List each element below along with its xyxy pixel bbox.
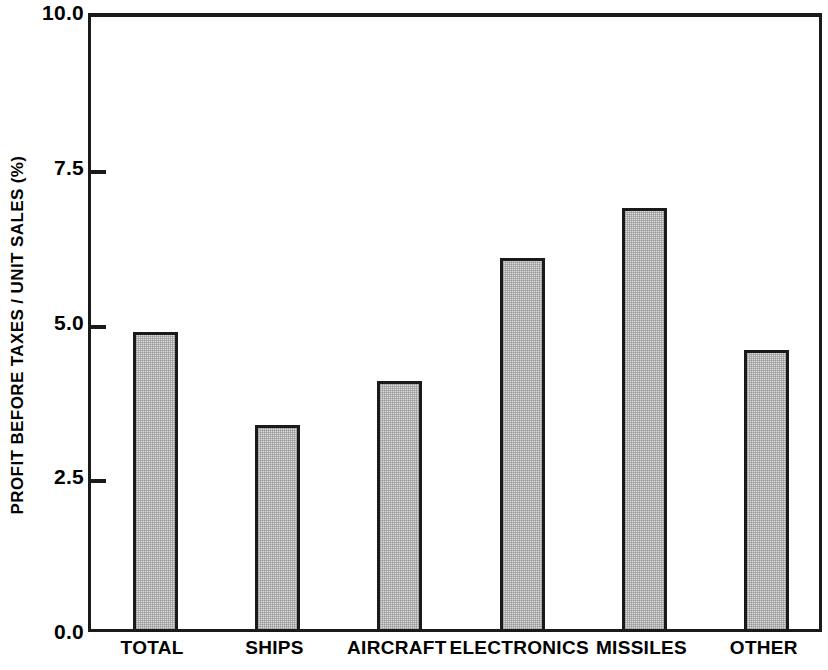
y-axis-tick-labels: 0.02.55.07.510.0 (22, 0, 84, 670)
bar-total (133, 332, 178, 629)
x-axis-category-labels: TOTALSHIPSAIRCRAFTELECTRONICSMISSILESOTH… (0, 637, 828, 667)
bar-aircraft (377, 381, 422, 629)
y-tick-label-10-0: 10.0 (26, 2, 84, 23)
bar-missiles (622, 208, 667, 629)
y-tick-label-7-5: 7.5 (26, 157, 84, 178)
bar-other (744, 350, 789, 629)
bar-electronics (500, 258, 545, 629)
plot-area (88, 13, 822, 632)
x-tick-label-other: OTHER (684, 637, 828, 659)
y-tick-label-2-5: 2.5 (26, 466, 84, 487)
bars-layer (91, 17, 819, 629)
y-tick-label-5-0: 5.0 (26, 312, 84, 333)
bar-chart: PROFIT BEFORE TAXES / UNIT SALES (%) 0.0… (0, 0, 828, 670)
bar-ships (255, 425, 300, 629)
